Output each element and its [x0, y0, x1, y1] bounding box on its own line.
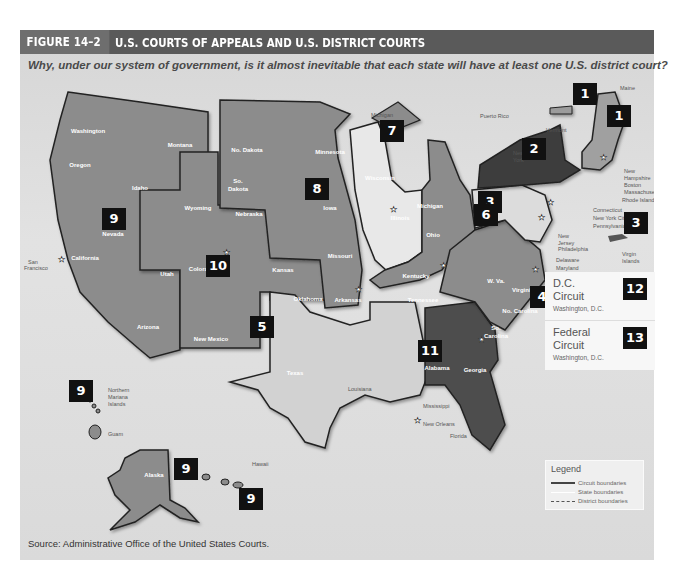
svg-text:Vermont: Vermont: [546, 127, 567, 133]
svg-text:Ohio: Ohio: [426, 232, 440, 238]
federal-circuit-line1: Federal: [553, 326, 613, 339]
svg-text:So.: So.: [233, 178, 243, 184]
svg-text:California: California: [71, 255, 99, 261]
svg-text:Carolina: Carolina: [484, 333, 509, 339]
dc-circuit-line1: D.C.: [553, 277, 613, 290]
guam-shape: [89, 425, 101, 439]
svg-text:★: ★: [600, 153, 607, 162]
svg-text:Alabama: Alabama: [424, 365, 450, 371]
federal-circuit-location: Washington, D.C.: [553, 354, 604, 361]
svg-text:Alaska: Alaska: [144, 472, 164, 478]
circuit-13-badge: 13: [623, 327, 647, 349]
circuit-7-region: [350, 122, 422, 270]
svg-text:★: ★: [440, 261, 447, 270]
svg-text:Maine: Maine: [620, 85, 635, 91]
circuit-11-badge: 11: [418, 340, 442, 362]
circuit-9-badge-alaska: 9: [174, 458, 198, 480]
federal-circuit: Federal Circuit Washington, D.C. 13: [545, 321, 655, 369]
circuit-5-badge: 5: [250, 316, 274, 338]
circuit-2-badge: 2: [522, 138, 546, 160]
svg-text:Mariana: Mariana: [108, 394, 129, 400]
svg-text:Northern: Northern: [108, 387, 129, 393]
svg-text:Kentucky: Kentucky: [402, 273, 430, 279]
federal-circuit-line2: Circuit: [553, 339, 613, 352]
svg-text:No. Dakota: No. Dakota: [231, 147, 263, 153]
svg-text:Puerto Rico: Puerto Rico: [480, 113, 509, 119]
svg-text:Kansas: Kansas: [272, 267, 294, 273]
svg-text:Tennessee: Tennessee: [408, 297, 439, 303]
legend-title: Legend: [551, 464, 581, 474]
svg-text:Hawaii: Hawaii: [252, 461, 269, 467]
svg-text:Arizona: Arizona: [137, 324, 160, 330]
circuit-12-badge: 12: [623, 278, 647, 300]
solid-dark-line-icon: [551, 482, 575, 484]
svg-text:New Orleans: New Orleans: [423, 421, 455, 427]
circuit-7-badge: 7: [380, 120, 404, 142]
circuit-1-badge: 1: [607, 105, 631, 127]
svg-text:Oklahoma: Oklahoma: [293, 296, 323, 302]
svg-text:Mississippi: Mississippi: [423, 403, 450, 409]
svg-text:Michigan: Michigan: [371, 112, 393, 118]
svg-text:Delaware: Delaware: [556, 257, 579, 263]
svg-text:Wyoming: Wyoming: [185, 205, 212, 211]
figure-source: Source: Administrative Office of the Uni…: [28, 538, 269, 549]
svg-text:Nebraska: Nebraska: [235, 211, 263, 217]
svg-text:Rhode Island: Rhode Island: [622, 197, 654, 203]
circuit-3-badge-virgin-islands: 3: [624, 212, 648, 234]
svg-text:★: ★: [478, 335, 485, 344]
circuit-10-badge: 10: [206, 255, 230, 277]
svg-text:Utah: Utah: [160, 271, 174, 277]
dashed-line-icon: [551, 501, 575, 502]
dc-circuit-location: Washington, D.C.: [553, 305, 604, 312]
svg-text:New Mexico: New Mexico: [194, 336, 229, 342]
svg-text:Islands: Islands: [108, 401, 126, 407]
svg-text:Islands: Islands: [622, 258, 640, 264]
svg-text:Connecticut: Connecticut: [593, 207, 623, 213]
figure: FIGURE 14–2 U.S. COURTS OF APPEALS AND U…: [20, 30, 654, 560]
svg-text:Florida: Florida: [450, 433, 468, 439]
svg-text:Maryland: Maryland: [556, 265, 579, 271]
legend-item-district: District boundaries: [551, 498, 628, 504]
svg-text:Montana: Montana: [168, 142, 193, 148]
svg-text:Texas: Texas: [287, 370, 304, 376]
circuit-9-badge-guam: 9: [69, 380, 93, 402]
svg-text:Idaho: Idaho: [132, 185, 148, 191]
circuit-1-badge-puerto-rico: 1: [573, 83, 597, 105]
svg-text:Iowa: Iowa: [323, 205, 337, 211]
svg-text:★: ★: [532, 265, 539, 274]
svg-text:Wisconsin: Wisconsin: [365, 175, 395, 181]
dc-circuit-line2: Circuit: [553, 290, 613, 303]
svg-text:Hampshire: Hampshire: [624, 175, 651, 181]
circuit-9-badge: 9: [102, 208, 126, 230]
svg-text:So.: So.: [491, 325, 501, 331]
svg-text:Washington: Washington: [71, 128, 105, 134]
legend-item-circuit: Circuit boundaries: [551, 480, 626, 486]
svg-text:Francisco: Francisco: [24, 265, 48, 271]
svg-text:Pennsylvania: Pennsylvania: [593, 223, 627, 229]
special-circuits-box: D.C. Circuit Washington, D.C. 12 Federal…: [545, 272, 655, 370]
svg-text:★: ★: [538, 213, 545, 222]
svg-text:Virgin: Virgin: [622, 251, 636, 257]
svg-text:Arkansas: Arkansas: [334, 297, 362, 303]
svg-text:Illinois: Illinois: [390, 215, 410, 221]
svg-text:New: New: [624, 168, 635, 174]
svg-text:Georgia: Georgia: [464, 367, 487, 373]
svg-text:Boston: Boston: [624, 182, 641, 188]
circuit-9-badge-hawaii: 9: [239, 488, 263, 510]
svg-text:Minnesota: Minnesota: [315, 149, 345, 155]
svg-text:Oregon: Oregon: [69, 162, 91, 168]
svg-text:Missouri: Missouri: [328, 253, 353, 259]
svg-text:New York City: New York City: [593, 215, 627, 221]
svg-text:Philadelphia: Philadelphia: [558, 246, 589, 252]
svg-text:★: ★: [414, 416, 421, 425]
virgin-islands-shape: [608, 234, 628, 242]
svg-text:★: ★: [355, 285, 362, 294]
dc-circuit: D.C. Circuit Washington, D.C. 12: [545, 272, 655, 321]
circuit-6-badge: 6: [474, 204, 498, 226]
svg-text:W. Va.: W. Va.: [487, 278, 505, 284]
legend-item-state: State boundaries: [551, 489, 623, 495]
svg-text:Guam: Guam: [108, 431, 123, 437]
circuit-8-badge: 8: [305, 178, 329, 200]
map-legend: Legend Circuit boundaries State boundari…: [545, 460, 644, 510]
svg-text:No. Carolina: No. Carolina: [502, 308, 538, 314]
